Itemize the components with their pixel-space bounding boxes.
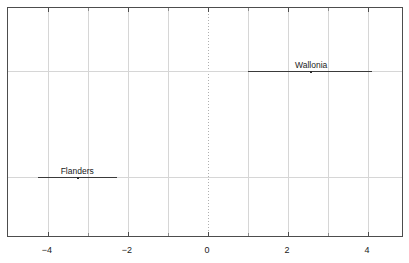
vertical-gridline xyxy=(368,8,369,236)
vertical-gridline xyxy=(248,8,249,236)
axis-tick-major xyxy=(208,232,209,236)
forest-plot-chart: WalloniaFlanders −4−2024 xyxy=(0,0,409,263)
axis-tick-major xyxy=(128,8,129,12)
series-label-wallonia: Wallonia xyxy=(295,60,327,70)
axis-tick-minor xyxy=(168,8,169,11)
axis-tick-major xyxy=(368,232,369,236)
vertical-gridline xyxy=(168,8,169,236)
axis-tick-major xyxy=(48,8,49,12)
point-estimate-marker xyxy=(77,177,79,179)
axis-tick-minor xyxy=(248,8,249,11)
vertical-gridline xyxy=(128,8,129,236)
point-estimate-marker xyxy=(310,71,312,73)
x-axis-tick-label: 4 xyxy=(364,245,369,256)
vertical-gridline xyxy=(288,8,289,236)
series-label-flanders: Flanders xyxy=(61,166,94,176)
axis-tick-major xyxy=(368,8,369,12)
vertical-gridline xyxy=(328,8,329,236)
axis-tick-major xyxy=(288,232,289,236)
axis-tick-major xyxy=(288,8,289,12)
axis-tick-minor xyxy=(248,233,249,236)
axis-tick-minor xyxy=(328,8,329,11)
zero-reference-line xyxy=(208,8,209,236)
x-axis-tick-label: 0 xyxy=(204,245,209,256)
vertical-gridline xyxy=(48,8,49,236)
plot-area: WalloniaFlanders xyxy=(7,7,403,237)
vertical-gridline xyxy=(88,8,89,236)
axis-tick-major xyxy=(208,8,209,12)
x-axis-tick-label: 2 xyxy=(284,245,289,256)
axis-tick-minor xyxy=(328,233,329,236)
axis-tick-major xyxy=(128,232,129,236)
axis-tick-major xyxy=(48,232,49,236)
axis-tick-minor xyxy=(88,8,89,11)
x-axis-tick-label: −2 xyxy=(122,245,132,256)
x-axis-tick-label: −4 xyxy=(42,245,52,256)
axis-tick-minor xyxy=(168,233,169,236)
axis-tick-minor xyxy=(88,233,89,236)
